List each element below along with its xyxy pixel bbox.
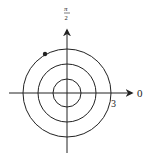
label-zero: 0	[137, 87, 143, 99]
label-two: 2	[65, 14, 68, 21]
label-pi: π	[64, 5, 68, 13]
label-three: 3	[111, 98, 116, 109]
polar-diagram: 0 3 π 2	[0, 0, 151, 157]
plotted-point	[43, 52, 47, 56]
